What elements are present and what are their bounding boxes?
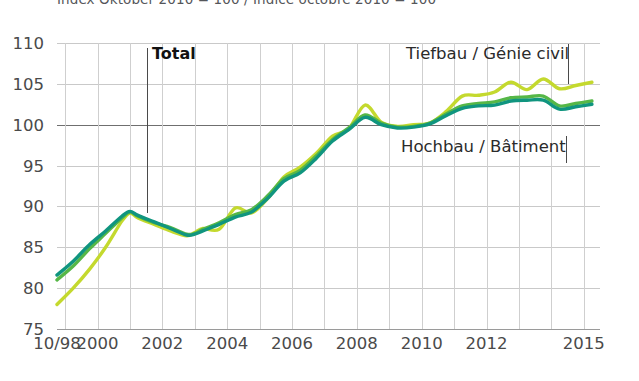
x-tick-label-2000: 2000 — [77, 334, 119, 353]
y-tick-label-105: 105 — [13, 74, 45, 93]
plot-area — [57, 43, 600, 329]
y-tick-label-90: 90 — [23, 197, 44, 216]
x-tick-label-2010: 2010 — [401, 334, 443, 353]
annotation-hochbau: Hochbau / Bâtiment — [401, 137, 566, 156]
series-line-2 — [57, 100, 592, 276]
annotation-tiefbau: Tiefbau / Génie civil — [406, 44, 569, 63]
chart-subtitle: Index Oktober 2010 = 100 / Indice octobr… — [57, 0, 436, 7]
x-tick-label-2012: 2012 — [466, 334, 508, 353]
y-tick-label-85: 85 — [23, 238, 44, 257]
y-tick-label-95: 95 — [23, 156, 44, 175]
x-tick-label-2008: 2008 — [336, 334, 378, 353]
x-tick-label-10-98: 10/98 — [33, 334, 81, 353]
y-tick-label-110: 110 — [13, 34, 45, 53]
x-tick-label-2006: 2006 — [271, 334, 313, 353]
gridline-y-75 — [57, 329, 600, 330]
annotation-hochbau-leader — [566, 136, 567, 163]
series-line-0 — [57, 79, 592, 305]
x-axis-labels: 10/9820002002200420062008201020122015 — [0, 334, 639, 364]
y-tick-label-100: 100 — [13, 115, 45, 134]
chart-page: Index Oktober 2010 = 100 / Indice octobr… — [0, 0, 639, 381]
annotation-total: Total — [152, 44, 196, 63]
series-lines — [57, 43, 600, 329]
x-tick-label-2002: 2002 — [141, 334, 183, 353]
annotation-tiefbau-leader — [568, 44, 569, 84]
y-tick-label-80: 80 — [23, 279, 44, 298]
x-tick-label-2004: 2004 — [206, 334, 248, 353]
y-axis-labels: 7580859095100105110 — [0, 43, 52, 329]
series-line-1 — [57, 96, 592, 280]
x-tick-label-2015: 2015 — [563, 334, 605, 353]
annotation-total-leader — [147, 48, 148, 213]
